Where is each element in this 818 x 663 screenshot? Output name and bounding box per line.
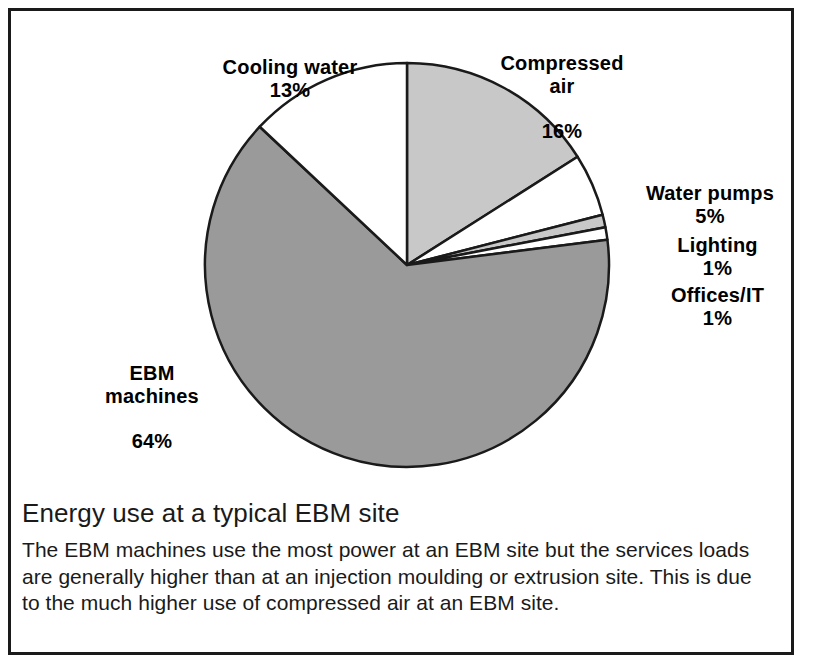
slice-label-compressed-air-percent: 16% <box>462 120 662 142</box>
slice-label-offices-it: Offices/IT 1% <box>630 262 805 352</box>
slice-label-cooling-water-text: Cooling water <box>223 56 358 78</box>
slice-label-ebm-machines-percent: 64% <box>52 430 252 452</box>
slice-label-lighting-text: Lighting <box>677 234 757 256</box>
caption-block: Energy use at a typical EBM site The EBM… <box>22 498 788 617</box>
slice-label-ebm-machines-text2: machines <box>52 385 252 407</box>
slice-label-compressed-air-text2: air <box>462 75 662 97</box>
slice-label-compressed-air-text1: Compressed <box>500 52 623 74</box>
slice-label-ebm-machines: EBM machines 64% <box>52 340 252 474</box>
slice-label-offices-it-text: Offices/IT <box>671 284 764 306</box>
slice-label-cooling-water-percent: 13% <box>180 79 400 101</box>
figure-container: Cooling water 13% Compressed air 16% Wat… <box>0 0 818 663</box>
pie-chart: Cooling water 13% Compressed air 16% Wat… <box>0 0 818 500</box>
slice-label-ebm-machines-text1: EBM <box>129 362 174 384</box>
slice-label-offices-it-percent: 1% <box>630 307 805 329</box>
chart-description: The EBM machines use the most power at a… <box>22 537 770 617</box>
chart-title: Energy use at a typical EBM site <box>22 498 788 529</box>
slice-label-cooling-water: Cooling water 13% <box>180 34 400 124</box>
slice-label-compressed-air: Compressed air 16% <box>462 30 662 164</box>
slice-label-water-pumps-text: Water pumps <box>646 182 774 204</box>
